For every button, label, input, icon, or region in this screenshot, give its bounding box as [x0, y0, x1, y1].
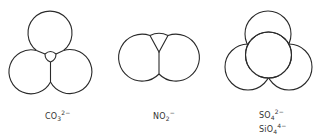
- label-superscript: 2−: [61, 109, 70, 116]
- carbon-atom-center: [45, 52, 56, 63]
- bond-edge: [56, 51, 64, 55]
- mask: [250, 40, 287, 76]
- label-base: SiO: [259, 125, 273, 134]
- label-base: SO: [259, 111, 271, 120]
- label-superscript: 2−: [275, 108, 284, 115]
- label-subscript: 2: [166, 115, 170, 122]
- oxygen-atom-bottom-right: [51, 50, 92, 94]
- label-superscript: −: [170, 109, 175, 116]
- label-base: NO: [153, 112, 166, 121]
- sulfate-label: SO42−: [259, 108, 284, 121]
- carbonate-model: [9, 11, 92, 94]
- oxygen-atom-top: [28, 11, 72, 50]
- sulfate-model: [225, 11, 312, 90]
- bond-edge: [37, 51, 46, 55]
- oxygen-atom-bottom-left: [9, 50, 50, 94]
- nitrite-label: NO2−: [153, 109, 175, 122]
- label-subscript: 3: [57, 115, 61, 122]
- nitrogen-atom-top: [150, 33, 168, 52]
- carbonate-label: CO32−: [45, 109, 71, 122]
- label-base: CO: [45, 112, 57, 121]
- label-subscript: 4: [271, 114, 275, 121]
- label-subscript: 4: [273, 128, 277, 135]
- label-superscript: 4−: [277, 122, 286, 129]
- nitrite-model: [119, 33, 200, 81]
- silicate-label: SiO44−: [259, 122, 286, 135]
